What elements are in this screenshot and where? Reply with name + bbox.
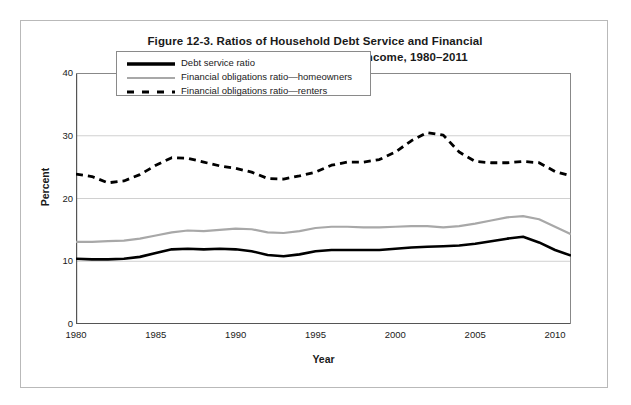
legend-swatch-solid-gray (125, 70, 177, 85)
y-tick-label-40: 40 (47, 68, 73, 78)
y-tick-label-30: 30 (47, 131, 73, 141)
x-axis-title: Year (76, 353, 571, 365)
legend-label-1: Debt service ratio (181, 57, 255, 68)
legend-swatch-dashed-black (125, 84, 177, 99)
chart-legend: Debt service ratioFinancial obligations … (116, 51, 371, 96)
x-tick-label-2010: 2010 (535, 329, 575, 340)
chart-title-line-1: Figure 12-3. Ratios of Household Debt Se… (21, 33, 609, 49)
series-line-1 (76, 237, 571, 260)
y-tick-label-20: 20 (47, 194, 73, 204)
legend-item-3: Financial obligations ratio—renters (117, 84, 370, 99)
series-line-3 (76, 133, 571, 183)
legend-swatch-solid-black (125, 56, 177, 71)
x-axis-tick-labels: 1980198519901995200020052010 (76, 329, 571, 345)
legend-label-3: Financial obligations ratio—renters (181, 85, 327, 96)
x-tick-label-1985: 1985 (136, 329, 176, 340)
plot-area (76, 73, 571, 324)
series-line-2 (76, 216, 571, 242)
x-tick-label-2000: 2000 (375, 329, 415, 340)
y-tick-label-0: 0 (47, 319, 73, 329)
y-tick-label-10: 10 (47, 256, 73, 266)
legend-item-2: Financial obligations ratio—homeowners (117, 70, 370, 85)
y-axis-tick-labels: 010203040 (39, 73, 73, 324)
x-tick-label-1995: 1995 (296, 329, 336, 340)
x-tick-label-2005: 2005 (455, 329, 495, 340)
chart-canvas (76, 73, 571, 324)
x-tick-label-1990: 1990 (216, 329, 256, 340)
legend-label-2: Financial obligations ratio—homeowners (181, 71, 352, 82)
figure-frame: Figure 12-3. Ratios of Household Debt Se… (20, 20, 608, 388)
legend-item-1: Debt service ratio (117, 56, 370, 71)
x-tick-label-1980: 1980 (56, 329, 96, 340)
